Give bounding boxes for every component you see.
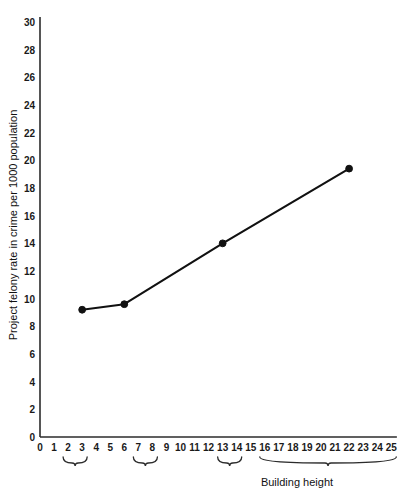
y-tick-label: 22 bbox=[24, 128, 36, 139]
y-tick-label: 24 bbox=[24, 100, 36, 111]
x-tick-label: 7 bbox=[136, 442, 142, 453]
y-tick-label: 20 bbox=[24, 155, 36, 166]
y-tick-label: 2 bbox=[29, 404, 35, 415]
x-tick-label: 4 bbox=[93, 442, 99, 453]
x-tick-label: 1 bbox=[51, 442, 57, 453]
x-tick-label: 25 bbox=[386, 442, 398, 453]
data-point-marker bbox=[121, 301, 128, 308]
y-axis-title: Project felony rate in crime per 1000 po… bbox=[7, 110, 19, 341]
x-tick-label: 14 bbox=[231, 442, 243, 453]
y-tick-label: 14 bbox=[24, 238, 36, 249]
data-point-marker bbox=[219, 240, 226, 247]
x-tick-label: 21 bbox=[329, 442, 341, 453]
y-tick-label: 0 bbox=[29, 432, 35, 443]
x-tick-label: 5 bbox=[107, 442, 113, 453]
x-tick-label: 8 bbox=[150, 442, 156, 453]
x-tick-label: 16 bbox=[259, 442, 271, 453]
y-tick-label: 10 bbox=[24, 294, 36, 305]
y-tick-label: 18 bbox=[24, 183, 36, 194]
x-tick-label: 11 bbox=[189, 442, 200, 453]
data-point-marker bbox=[79, 306, 86, 313]
y-tick-label: 12 bbox=[24, 266, 36, 277]
x-tick-label: 13 bbox=[217, 442, 229, 453]
x-tick-label: 2 bbox=[65, 442, 71, 453]
x-tick-label: 20 bbox=[315, 442, 327, 453]
x-tick-label: 24 bbox=[372, 442, 384, 453]
x-tick-label: 10 bbox=[175, 442, 187, 453]
y-tick-label: 30 bbox=[24, 17, 36, 28]
x-tick-label: 12 bbox=[203, 442, 215, 453]
x-tick-label: 15 bbox=[245, 442, 257, 453]
chart-background bbox=[0, 0, 406, 497]
y-tick-label: 6 bbox=[29, 349, 35, 360]
x-tick-label: 22 bbox=[344, 442, 356, 453]
y-tick-label: 8 bbox=[29, 321, 35, 332]
data-point-marker bbox=[346, 165, 353, 172]
x-tick-label: 17 bbox=[273, 442, 285, 453]
x-tick-label: 0 bbox=[37, 442, 43, 453]
y-tick-label: 16 bbox=[24, 211, 36, 222]
felony-rate-line-chart: 024681012141618202224262830 012345678910… bbox=[0, 0, 406, 497]
x-tick-label: 6 bbox=[122, 442, 128, 453]
x-tick-label: 9 bbox=[164, 442, 170, 453]
y-tick-label: 28 bbox=[24, 45, 36, 56]
y-tick-label: 4 bbox=[29, 377, 35, 388]
x-tick-label: 23 bbox=[358, 442, 370, 453]
x-tick-label: 19 bbox=[301, 442, 313, 453]
x-tick-label: 18 bbox=[287, 442, 299, 453]
x-axis-title: Building height bbox=[261, 476, 333, 488]
chart-figure: 024681012141618202224262830 012345678910… bbox=[0, 0, 406, 497]
y-tick-label: 26 bbox=[24, 72, 36, 83]
x-tick-label: 3 bbox=[79, 442, 85, 453]
